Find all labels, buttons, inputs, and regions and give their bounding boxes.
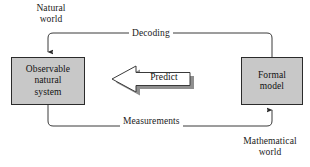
region-label-mathematical-world: Mathematical world: [231, 136, 309, 158]
edge-label-measurements: Measurements: [120, 116, 183, 127]
node-formal-model: Formal model: [241, 57, 303, 105]
modeling-relation-diagram: Natural world Observable natural system …: [0, 0, 310, 167]
node-observable-natural-system: Observable natural system: [11, 57, 85, 105]
edge-label-predict: Predict: [141, 72, 187, 83]
region-label-natural-world: Natural world: [14, 3, 88, 25]
edge-label-decoding: Decoding: [129, 28, 173, 39]
